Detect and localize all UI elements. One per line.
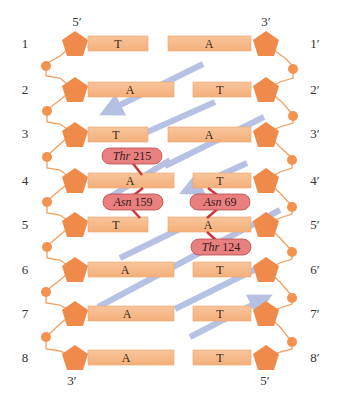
base-2-left: A: [126, 83, 135, 97]
svg-text:8′: 8′: [310, 350, 320, 365]
sugar-pentagon-icon: [62, 122, 88, 147]
sugar-pentagon-icon: [62, 301, 88, 326]
sugar-pentagon-icon: [62, 77, 88, 102]
svg-text:1′: 1′: [310, 36, 320, 51]
sugar-pentagon-icon: [62, 31, 88, 56]
svg-text:3: 3: [22, 126, 29, 141]
svg-text:5′: 5′: [310, 217, 320, 232]
base-8-right: T: [216, 351, 224, 365]
left-sugars: [62, 31, 88, 370]
right-position-labels: 1′ 2′ 3′ 4′ 5′ 6′ 7′ 8′: [310, 36, 320, 365]
base-5-left: T: [112, 218, 120, 232]
base-3-left: T: [112, 128, 120, 142]
svg-text:Asn 159: Asn 159: [113, 195, 153, 209]
svg-text:Thr 124: Thr 124: [202, 240, 240, 254]
right-sugars: [253, 31, 279, 370]
base-7-left: A: [123, 307, 132, 321]
svg-text:6: 6: [22, 262, 29, 277]
dna-protein-contact-diagram: Thr 215 Asn 159 Asn 69 Thr 124 T A A T T…: [0, 0, 340, 403]
sugar-pentagon-icon: [253, 168, 279, 193]
svg-text:7′: 7′: [310, 306, 320, 321]
right-top-end-label: 3′: [261, 14, 271, 29]
base-6-left: A: [121, 263, 130, 277]
svg-text:7: 7: [22, 306, 29, 321]
residue-asn69: Asn 69: [190, 194, 250, 210]
svg-text:5: 5: [22, 217, 29, 232]
residue-thr215: Thr 215: [102, 148, 162, 164]
svg-text:8: 8: [22, 350, 29, 365]
base-4-right: T: [216, 174, 224, 188]
base-5-right: A: [204, 218, 213, 232]
residue-asn159: Asn 159: [103, 194, 163, 210]
base-bar-8-left: [88, 350, 174, 365]
base-7-right: T: [216, 307, 224, 321]
svg-text:6′: 6′: [310, 262, 320, 277]
svg-text:4: 4: [22, 173, 29, 188]
left-position-labels: 1 2 3 4 5 6 7 8: [22, 36, 29, 365]
sugar-pentagon-icon: [253, 345, 279, 370]
base-2-right: T: [216, 83, 224, 97]
sugar-pentagon-icon: [253, 31, 279, 56]
svg-text:2′: 2′: [310, 82, 320, 97]
svg-text:1: 1: [22, 36, 29, 51]
residue-thr124: Thr 124: [191, 239, 251, 255]
left-bottom-end-label: 3′: [67, 373, 77, 388]
base-1-left: T: [114, 37, 122, 51]
sugar-pentagon-icon: [62, 168, 88, 193]
base-1-right: A: [205, 37, 214, 51]
right-bottom-end-label: 5′: [260, 373, 270, 388]
base-6-right: T: [216, 263, 224, 277]
sugar-pentagon-icon: [253, 77, 279, 102]
svg-text:Asn 69: Asn 69: [203, 195, 237, 209]
svg-text:2: 2: [22, 82, 29, 97]
svg-text:4′: 4′: [310, 173, 320, 188]
base-3-right: A: [205, 128, 214, 142]
base-bar-6-left: [88, 262, 174, 277]
sugar-pentagon-icon: [62, 257, 88, 282]
sugar-pentagon-icon: [253, 122, 279, 147]
base-4-left: A: [126, 174, 135, 188]
svg-text:3′: 3′: [310, 126, 320, 141]
left-top-end-label: 5′: [72, 14, 82, 29]
sugar-pentagon-icon: [62, 212, 88, 237]
sugar-pentagon-icon: [62, 345, 88, 370]
base-8-left: A: [122, 351, 131, 365]
sugar-pentagon-icon: [253, 257, 279, 282]
svg-text:Thr 215: Thr 215: [113, 149, 151, 163]
